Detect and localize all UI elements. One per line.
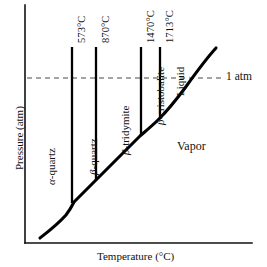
phase-label-alpha-quartz: α-quartz <box>46 148 57 185</box>
phase-label-vapor: Vapor <box>177 140 206 152</box>
phase-label-liquid: Liquid <box>175 67 186 96</box>
phase-label-alpha-quartz-symbol: α <box>45 179 57 185</box>
temperature-label-573-text: 573°C <box>76 16 87 43</box>
temperature-label-1713-text: 1713°C <box>164 10 175 43</box>
temperature-label-870: 870°C <box>101 16 112 43</box>
phase-label-beta-quartz: β-quartz <box>88 138 99 175</box>
one-atm-annotation-text: 1 atm <box>226 70 252 82</box>
temperature-label-1713: 1713°C <box>165 10 176 43</box>
one-atm-annotation: 1 atm <box>226 71 252 83</box>
phase-label-beta-quartz-text: -quartz <box>87 138 99 169</box>
phase-label-vapor-text: Vapor <box>177 139 206 153</box>
diagram-canvas <box>0 0 267 267</box>
phase-label-beta-cristobalite-text: -cristobalite <box>154 67 166 120</box>
phase-label-beta-cristobalite-symbol: β <box>154 120 166 125</box>
phase-label-beta-quartz-symbol: β <box>87 170 99 175</box>
x-axis-title: Temperature (°C) <box>97 251 174 262</box>
phase-label-beta-tridymite: β-tridymite <box>120 106 131 155</box>
temperature-label-573: 573°C <box>77 16 88 43</box>
phase-label-alpha-quartz-text: -quartz <box>45 148 57 179</box>
temperature-label-870-text: 870°C <box>100 16 111 43</box>
phase-label-beta-tridymite-text: -tridymite <box>119 106 131 150</box>
temperature-label-1470-text: 1470°C <box>145 10 156 43</box>
phase-label-beta-tridymite-symbol: β <box>119 150 131 155</box>
x-axis-title-text: Temperature (°C) <box>97 250 174 262</box>
phase-diagram-figure: 573°C 870°C 1470°C 1713°C α-quartz β-qua… <box>0 0 267 267</box>
y-axis-title: Pressure (atm) <box>14 106 25 170</box>
y-axis-title-text: Pressure (atm) <box>13 106 25 170</box>
phase-label-beta-cristobalite: β-cristobalite <box>155 67 166 125</box>
phase-label-liquid-text: Liquid <box>174 67 186 96</box>
temperature-label-1470: 1470°C <box>146 10 157 43</box>
